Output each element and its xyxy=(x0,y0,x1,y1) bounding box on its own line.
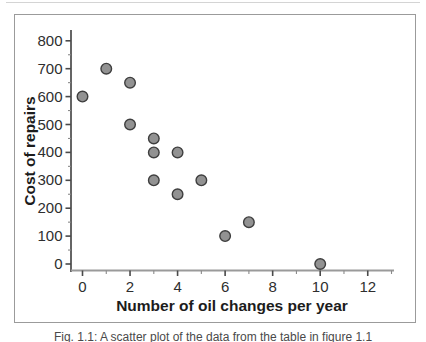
data-point xyxy=(101,63,112,74)
figure-caption: Fig. 1.1: A scatter plot of the data fro… xyxy=(0,330,426,342)
x-tick-label: 8 xyxy=(268,278,276,295)
y-tick-label: 200 xyxy=(37,199,62,216)
y-tick-label: 800 xyxy=(37,32,62,49)
data-point xyxy=(149,147,160,158)
data-point xyxy=(125,77,136,88)
data-point xyxy=(172,189,183,200)
data-point xyxy=(149,133,160,144)
scatter-plot: 0100200300400500600700800024681012Number… xyxy=(15,15,415,322)
x-tick-label: 12 xyxy=(359,278,376,295)
data-point xyxy=(77,91,88,102)
top-edge-divider xyxy=(6,2,420,3)
data-point xyxy=(125,119,136,130)
data-point xyxy=(172,147,183,158)
x-tick-label: 2 xyxy=(126,278,134,295)
x-tick-label: 10 xyxy=(312,278,329,295)
x-tick-label: 0 xyxy=(78,278,86,295)
x-tick-label: 4 xyxy=(173,278,181,295)
y-tick-label: 400 xyxy=(37,143,62,160)
y-tick-label: 0 xyxy=(54,255,62,272)
x-tick-label: 6 xyxy=(221,278,229,295)
y-tick-label: 700 xyxy=(37,60,62,77)
y-axis-title: Cost of repairs xyxy=(21,96,38,205)
data-point xyxy=(244,217,255,228)
data-point xyxy=(196,175,207,186)
x-axis-title: Number of oil changes per year xyxy=(116,297,348,314)
y-tick-label: 600 xyxy=(37,88,62,105)
figure-frame: 0100200300400500600700800024681012Number… xyxy=(14,14,416,323)
y-tick-label: 300 xyxy=(37,171,62,188)
y-tick-label: 500 xyxy=(37,116,62,133)
data-point xyxy=(315,259,326,270)
y-tick-label: 100 xyxy=(37,227,62,244)
data-point xyxy=(149,175,160,186)
page: 0100200300400500600700800024681012Number… xyxy=(0,0,426,342)
data-point xyxy=(220,231,231,242)
